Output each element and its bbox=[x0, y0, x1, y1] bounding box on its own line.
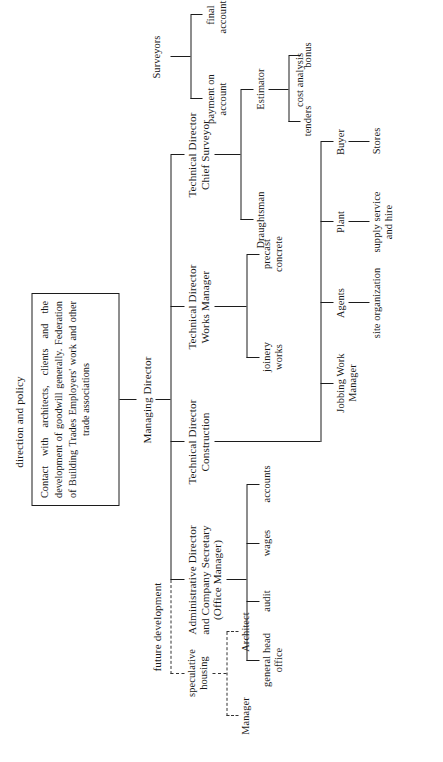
node-cost-analysis: cost analysis bbox=[293, 32, 305, 128]
surveyors-child-drop-final bbox=[190, 14, 202, 15]
admin-child-drop-1 bbox=[246, 601, 259, 602]
construction-stem bbox=[214, 441, 320, 442]
admin-children-bar bbox=[246, 485, 247, 661]
top-caption: direction and policy bbox=[12, 332, 25, 512]
construction-child-drop-1 bbox=[320, 302, 333, 303]
node-technical-director-construction: Technical Director Construction bbox=[185, 372, 210, 512]
node-final-accounts: final accounts bbox=[204, 0, 227, 58]
works-stem bbox=[214, 306, 246, 307]
construction-children-bar bbox=[320, 142, 321, 442]
estimator-children-bar bbox=[288, 56, 289, 122]
managing-director-spine bbox=[155, 399, 170, 400]
construction-child-drop-3 bbox=[320, 141, 333, 142]
future-development-drop bbox=[170, 673, 184, 674]
node-draughtsman: Draughtsman bbox=[254, 172, 266, 268]
admin-stem bbox=[226, 579, 246, 580]
node-surveyors: Surveyors bbox=[150, 14, 162, 100]
node-architect: Architect bbox=[239, 594, 251, 670]
node-manager: Manager bbox=[239, 678, 251, 754]
policy-note-box: Contact with architects, clients and the… bbox=[31, 293, 119, 506]
drop-admin bbox=[170, 579, 184, 580]
admin-child-drop-3 bbox=[246, 484, 259, 485]
surveyor-children-bar bbox=[240, 90, 241, 220]
node-plant: Plant bbox=[334, 183, 346, 261]
node-joinery-works: joinery works bbox=[260, 318, 283, 396]
speculative-housing-bar bbox=[226, 632, 227, 716]
construction-child-drop-2 bbox=[320, 221, 333, 222]
construction-child-drop-0 bbox=[320, 383, 333, 384]
node-payment-on-account: payment on account bbox=[204, 56, 227, 142]
surveyors-stem bbox=[170, 56, 190, 57]
admin-child-drop-2 bbox=[246, 543, 259, 544]
agents-stem bbox=[348, 302, 369, 303]
surveyors-child-drop-payment bbox=[190, 98, 202, 99]
drop-surveyor bbox=[170, 154, 184, 155]
node-accounts: accounts bbox=[260, 444, 272, 524]
future-development-trunk bbox=[170, 580, 171, 674]
plant-stem bbox=[348, 221, 369, 222]
node-technical-director-works-manager: Technical Director Works Manager bbox=[185, 237, 210, 377]
node-stores: Stores bbox=[370, 102, 382, 180]
surveyor-stem bbox=[214, 154, 240, 155]
surveyor-child-drop-estimator bbox=[240, 89, 253, 90]
node-administrative-director: Administrative Director and Company Secr… bbox=[185, 510, 223, 650]
speculative-housing-stem bbox=[212, 673, 226, 674]
main-trunk bbox=[170, 155, 171, 580]
future-development-caption: future development bbox=[150, 552, 163, 702]
estimator-stem bbox=[268, 89, 288, 90]
works-child-drop-0 bbox=[246, 357, 259, 358]
node-estimator: Estimator bbox=[254, 50, 266, 128]
node-managing-director: Managing Director bbox=[140, 330, 153, 470]
drop-construction bbox=[170, 441, 184, 442]
drop-manager bbox=[226, 715, 238, 716]
works-children-bar bbox=[246, 255, 247, 358]
admin-child-drop-0 bbox=[246, 660, 259, 661]
node-buyer: Buyer bbox=[334, 103, 346, 181]
node-supply-service-and-hire: supply service and hire bbox=[370, 174, 393, 270]
drop-architect bbox=[226, 631, 238, 632]
node-agents: Agents bbox=[334, 264, 346, 342]
drop-works bbox=[170, 306, 184, 307]
note-connector bbox=[119, 399, 136, 400]
buyer-stem bbox=[348, 141, 369, 142]
surveyor-child-drop-draughtsman bbox=[240, 219, 253, 220]
org-chart-canvas: direction and policy Contact with archit… bbox=[0, 0, 443, 762]
node-jobbing-work-manager: Jobbing Work Manager bbox=[334, 340, 357, 426]
surveyors-children-bar bbox=[190, 15, 191, 99]
diagram-rotation-wrapper: direction and policy Contact with archit… bbox=[0, 0, 443, 762]
